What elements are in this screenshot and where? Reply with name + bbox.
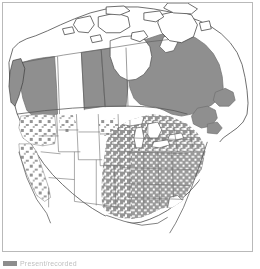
map-legend: Present/recorded bbox=[3, 258, 77, 269]
victoria-island bbox=[98, 13, 130, 33]
region-washington-oregon bbox=[19, 114, 57, 146]
island-small-c bbox=[199, 21, 211, 31]
lake-michigan bbox=[134, 127, 144, 148]
legend-swatch-shaded bbox=[3, 261, 17, 266]
region-florida bbox=[168, 195, 186, 227]
map-frame bbox=[2, 2, 253, 252]
distribution-map-figure: Present/recorded bbox=[0, 0, 260, 269]
north-america-map bbox=[3, 3, 252, 251]
legend-label-shaded: Present/recorded bbox=[20, 260, 77, 268]
region-british-columbia bbox=[20, 57, 58, 117]
